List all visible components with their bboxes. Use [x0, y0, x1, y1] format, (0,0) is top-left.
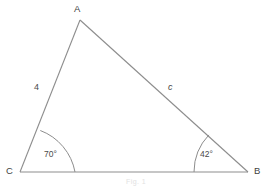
side-ab-line: [80, 20, 248, 172]
side-label-ca: 4: [34, 83, 39, 92]
angle-label-c: 70°: [44, 150, 57, 159]
figure-caption: Fig. 1: [0, 178, 272, 185]
vertex-label-c: C: [6, 166, 13, 175]
vertex-label-a: A: [74, 4, 80, 13]
diagram-canvas: A B C 4 c 70° 42° Fig. 1: [0, 0, 272, 188]
angle-label-b: 42°: [200, 150, 213, 159]
vertex-label-b: B: [254, 166, 260, 175]
side-label-ab: c: [168, 83, 173, 92]
triangle-figure: [0, 0, 272, 188]
